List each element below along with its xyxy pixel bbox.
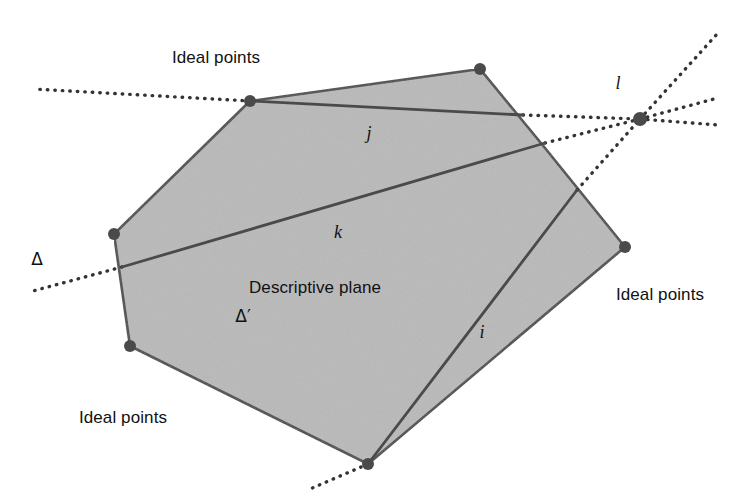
line-i-label: i bbox=[479, 322, 484, 343]
dotted-ray-i-beyond bbox=[640, 33, 718, 119]
dotted-ray-j-left bbox=[33, 89, 250, 101]
ideal-points-top-label: Ideal points bbox=[172, 48, 260, 68]
delta-label: Δ bbox=[31, 249, 43, 269]
plane-symbol-label: Δ′ bbox=[235, 306, 251, 326]
dotted-ray-j-beyond bbox=[640, 119, 718, 125]
descriptive-plane-label: Descriptive plane bbox=[249, 278, 381, 298]
dotted-ray-j-right bbox=[523, 115, 640, 119]
line-l-label: l bbox=[615, 73, 620, 94]
dotted-ray-i-up bbox=[577, 119, 640, 190]
vertex-dot-1 bbox=[474, 63, 486, 75]
dotted-ray-k-right bbox=[545, 119, 640, 143]
vertex-dot-3 bbox=[362, 458, 374, 470]
vertex-dot-4 bbox=[124, 340, 136, 352]
ideal-points-left-label: Ideal points bbox=[79, 408, 167, 428]
dotted-ray-k-left bbox=[33, 267, 122, 291]
vertex-dot-2 bbox=[619, 241, 631, 253]
line-k-label: k bbox=[334, 222, 342, 243]
ideal-point-dot bbox=[633, 112, 647, 126]
line-j-label: j bbox=[366, 123, 371, 144]
vertex-dot-5 bbox=[108, 228, 120, 240]
ideal-points-right-label: Ideal points bbox=[616, 285, 704, 305]
vertex-dot-0 bbox=[244, 95, 256, 107]
dotted-ray-i-down bbox=[310, 464, 368, 489]
